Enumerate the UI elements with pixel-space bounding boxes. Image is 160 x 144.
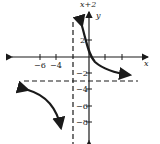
- x-tick-label: −4: [50, 61, 62, 70]
- graph: x+2 x y −6 −4 2 −2 −4 −6 −8: [0, 0, 160, 144]
- equation-fragment: x+2: [80, 0, 96, 9]
- x-axis-label: x: [144, 59, 149, 68]
- y-tick-label: −4: [76, 85, 88, 94]
- y-tick-label: −8: [76, 118, 88, 127]
- y-tick-label: −6: [76, 102, 88, 111]
- curve-left-branch: [28, 90, 61, 128]
- x-tick-label: −6: [34, 61, 46, 70]
- y-axis-label: y: [95, 11, 101, 20]
- y-tick-label: −2: [76, 69, 88, 78]
